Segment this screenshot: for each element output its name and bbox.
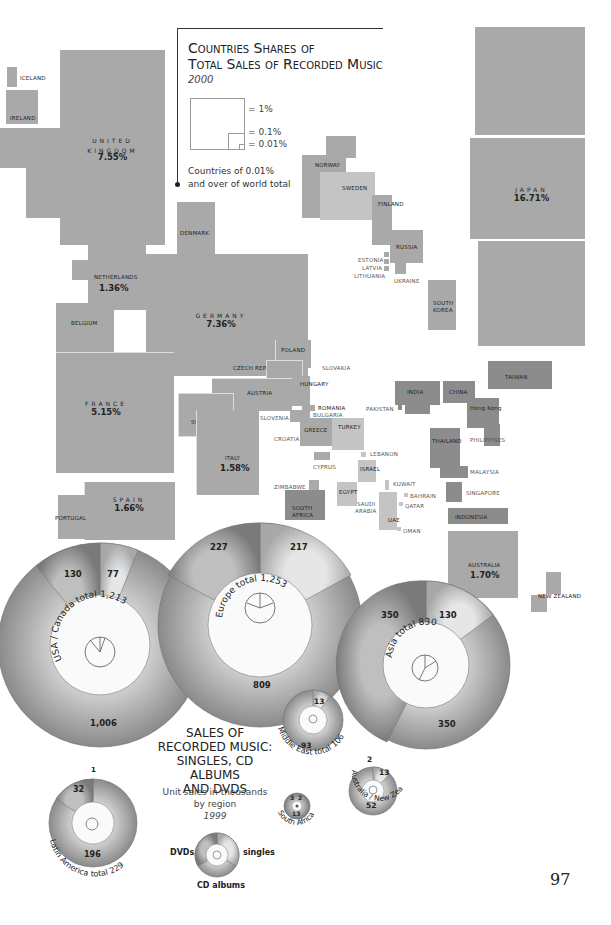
europe-singles-value: 217	[290, 542, 308, 552]
donut-subtitle: Unit sales in thousands by region 1999	[150, 786, 280, 822]
asia-dvds-value: 350	[381, 610, 399, 620]
svg-text:Europe total 1,253: Europe total 1,253	[214, 573, 289, 619]
latin-america-dvds-value: 32	[73, 785, 84, 794]
svg-text:Asia total 830: Asia total 830	[384, 617, 438, 659]
europe-dvds-value: 227	[210, 542, 228, 552]
label-asia-total: Asia total 830	[384, 617, 438, 659]
donut-title-line2: RECORDED MUSIC:	[150, 740, 280, 754]
asia-singles-value: 130	[439, 610, 457, 620]
label-south-africa-total: South Africa 18	[0, 0, 317, 827]
south-africa-dvds-value: 3	[290, 794, 294, 801]
key-cd-albums-label: CD albums	[197, 881, 245, 890]
anz-dvds-value: 2	[367, 755, 372, 764]
middle-east-cd-value: 93	[301, 741, 311, 750]
south-africa-singles-value: 2	[298, 794, 302, 801]
anz-cd-value: 52	[366, 801, 376, 810]
usa-singles-value: 77	[107, 569, 119, 579]
middle-east-singles-value: 13	[314, 697, 324, 706]
latin-america-cd-value: 196	[84, 850, 101, 859]
donut-subtitle-line2: by region	[150, 798, 280, 810]
asia-cd-value: 350	[438, 719, 456, 729]
label-australia-nz-total: Australia / New Zealand total 67	[0, 0, 405, 803]
anz-singles-value: 13	[379, 768, 389, 777]
donut-title-line3: SINGLES, CD ALBUMS	[150, 754, 280, 782]
page-number: 97	[550, 870, 570, 889]
europe-cd-value: 809	[253, 680, 271, 690]
key-singles-label: singles	[243, 848, 275, 857]
south-africa-cd-value: 13	[292, 810, 300, 817]
svg-text:USA / Canada total 1,213: USA / Canada total 1,213	[49, 589, 128, 663]
svg-text:Australia / New Zealand total: Australia / New Zealand total 67	[0, 0, 405, 803]
label-usa-total: USA / Canada total 1,213	[49, 589, 128, 663]
donut-year: 1999	[150, 810, 280, 822]
label-europe-total: Europe total 1,253	[214, 573, 289, 619]
donut-subtitle-line1: Unit sales in thousands	[150, 786, 280, 798]
donut-title-line1: SALES OF	[150, 726, 280, 740]
svg-text:South Africa 18: South Africa 18	[0, 0, 317, 827]
usa-dvds-value: 130	[64, 569, 82, 579]
key-dvds-label: DVDs	[170, 848, 194, 857]
usa-cd-value: 1,006	[90, 718, 117, 728]
donut-region-labels: USA / Canada total 1,213 Europe total 1,…	[0, 0, 611, 925]
latin-america-singles-value: 1	[91, 766, 96, 774]
